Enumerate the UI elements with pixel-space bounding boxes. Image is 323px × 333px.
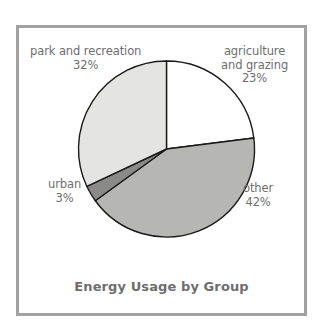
chart-title: Energy Usage by Group — [16, 279, 307, 294]
figure-root: park and recreation 32% agriculture and … — [0, 0, 323, 333]
pie-label-other-value: 42% — [243, 196, 273, 210]
pie-label-urban-text: urban — [48, 177, 81, 191]
pie-label-park-and-recreation: park and recreation 32% — [30, 45, 141, 72]
pie-label-agriculture-text-line2: and grazing — [221, 59, 288, 73]
pie-label-agriculture-text-line1: agriculture — [224, 44, 285, 58]
pie-label-other-text: other — [243, 181, 273, 195]
pie-label-agriculture-and-grazing: agriculture and grazing 23% — [221, 45, 288, 86]
pie-label-park-text: park and recreation — [30, 44, 141, 58]
pie-label-other: other 42% — [243, 182, 273, 209]
pie-label-urban: urban 3% — [48, 178, 81, 205]
pie-label-park-value: 32% — [30, 59, 141, 73]
pie-label-agriculture-value: 23% — [221, 72, 288, 86]
pie-label-urban-value: 3% — [48, 192, 81, 206]
pie-slices — [79, 61, 255, 237]
